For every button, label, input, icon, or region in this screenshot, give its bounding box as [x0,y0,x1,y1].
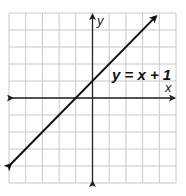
y-axis-label: y [96,13,105,28]
coordinate-plane: y x y = x + 1 [0,0,186,196]
equation-label: y = x + 1 [111,66,171,83]
line-y-equals-x-plus-1 [11,16,156,164]
